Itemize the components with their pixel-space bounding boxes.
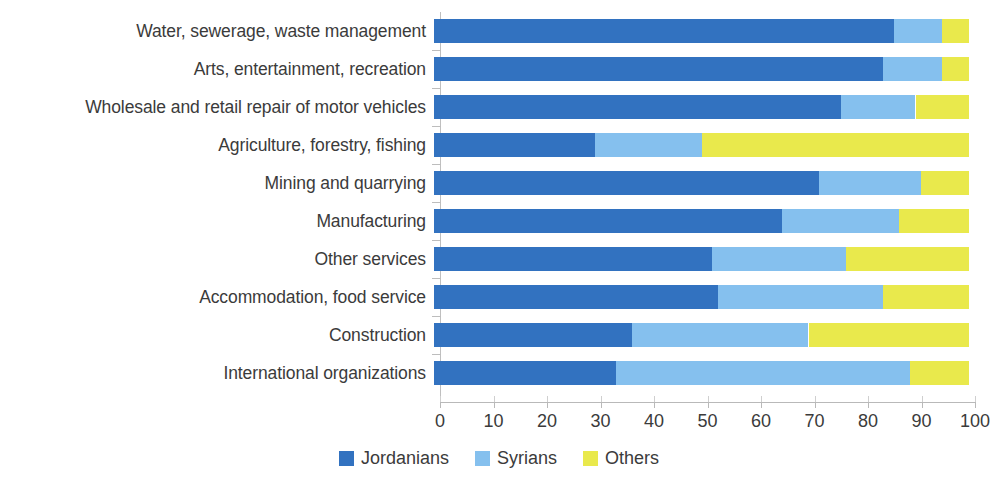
- stacked-bar: [434, 95, 969, 119]
- x-tick-mark-upper: [440, 396, 441, 402]
- x-tick-mark-upper: [922, 396, 923, 402]
- x-tick-mark-upper: [547, 396, 548, 402]
- x-tick-mark-upper: [494, 396, 495, 402]
- bar-segment-jordanians: [434, 133, 595, 157]
- bar-row: Mining and quarrying: [0, 164, 998, 202]
- x-tick-mark-upper: [708, 396, 709, 402]
- category-label: Construction: [0, 325, 432, 345]
- bar-segment-syrians: [782, 209, 900, 233]
- stacked-bar: [434, 57, 969, 81]
- bar-row: Construction: [0, 316, 998, 354]
- bar-segment-others: [809, 323, 970, 347]
- row-separator-tick: [432, 164, 441, 165]
- x-tick-label: 80: [858, 410, 878, 432]
- stacked-bar: [434, 133, 969, 157]
- x-axis-tick-labels: 0102030405060708090100: [440, 410, 975, 436]
- bar-segment-syrians: [616, 361, 910, 385]
- legend-label: Others: [605, 448, 659, 468]
- category-label: Accommodation, food service: [0, 287, 432, 307]
- bar-segment-syrians: [712, 247, 846, 271]
- x-tick-label: 90: [911, 410, 931, 432]
- x-tick-label: 50: [697, 410, 717, 432]
- category-label: International organizations: [0, 363, 432, 383]
- x-tick-label: 10: [483, 410, 503, 432]
- bar-segment-jordanians: [434, 361, 616, 385]
- bar-segment-others: [899, 209, 969, 233]
- stacked-bar: [434, 209, 969, 233]
- legend-item-jordanians[interactable]: Jordanians: [339, 448, 449, 468]
- bar-segment-jordanians: [434, 171, 819, 195]
- bar-segment-others: [942, 57, 969, 81]
- bar-row: Water, sewerage, waste management: [0, 12, 998, 50]
- stacked-bar-chart: Water, sewerage, waste managementArts, e…: [0, 0, 998, 477]
- legend-item-syrians[interactable]: Syrians: [475, 448, 557, 468]
- category-label: Arts, entertainment, recreation: [0, 59, 432, 79]
- x-tick-label: 0: [435, 410, 445, 432]
- x-tick-mark-upper: [975, 396, 976, 402]
- stacked-bar: [434, 247, 969, 271]
- bar-segment-jordanians: [434, 285, 718, 309]
- bar-row: International organizations: [0, 354, 998, 392]
- bar-segment-jordanians: [434, 323, 632, 347]
- x-tick-label: 70: [804, 410, 824, 432]
- x-tick: [761, 402, 762, 408]
- x-axis-line: [440, 402, 975, 403]
- bar-segment-jordanians: [434, 247, 712, 271]
- bar-segment-others: [910, 361, 969, 385]
- bar-segment-jordanians: [434, 209, 782, 233]
- row-separator-tick: [432, 126, 441, 127]
- bar-segment-others: [883, 285, 969, 309]
- x-tick-mark-upper: [654, 396, 655, 402]
- bar-segment-others: [942, 19, 969, 43]
- x-tick: [815, 402, 816, 408]
- bar-segment-syrians: [841, 95, 916, 119]
- x-tick: [975, 402, 976, 408]
- bar-segment-others: [846, 247, 969, 271]
- category-label: Water, sewerage, waste management: [0, 21, 432, 41]
- row-separator-tick: [432, 354, 441, 355]
- bar-segment-jordanians: [434, 19, 894, 43]
- x-tick: [868, 402, 869, 408]
- bar-segment-others: [702, 133, 970, 157]
- bar-segment-others: [916, 95, 970, 119]
- bar-row: Accommodation, food service: [0, 278, 998, 316]
- stacked-bar: [434, 361, 969, 385]
- stacked-bar: [434, 323, 969, 347]
- legend-swatch-icon: [339, 451, 354, 466]
- row-separator-tick: [432, 240, 441, 241]
- x-tick: [547, 402, 548, 408]
- x-tick-label: 60: [751, 410, 771, 432]
- legend-item-others[interactable]: Others: [583, 448, 659, 468]
- bar-segment-jordanians: [434, 57, 883, 81]
- x-tick: [440, 402, 441, 408]
- bar-segment-syrians: [718, 285, 884, 309]
- x-tick-label: 20: [537, 410, 557, 432]
- bar-segment-syrians: [894, 19, 942, 43]
- row-separator-tick: [432, 316, 441, 317]
- bar-row: Other services: [0, 240, 998, 278]
- x-tick: [601, 402, 602, 408]
- plot-area: Water, sewerage, waste managementArts, e…: [0, 0, 998, 410]
- bar-segment-syrians: [883, 57, 942, 81]
- x-tick: [708, 402, 709, 408]
- x-tick-mark-upper: [815, 396, 816, 402]
- category-label: Manufacturing: [0, 211, 432, 231]
- x-tick: [922, 402, 923, 408]
- legend-label: Jordanians: [361, 448, 449, 468]
- bar-segment-jordanians: [434, 95, 841, 119]
- bar-row: Wholesale and retail repair of motor veh…: [0, 88, 998, 126]
- x-tick-label: 100: [960, 410, 990, 432]
- x-tick-mark-upper: [761, 396, 762, 402]
- category-label: Agriculture, forestry, fishing: [0, 135, 432, 155]
- stacked-bar: [434, 171, 969, 195]
- category-label: Other services: [0, 249, 432, 269]
- row-separator-tick: [432, 202, 441, 203]
- bar-segment-syrians: [632, 323, 809, 347]
- bar-rows: Water, sewerage, waste managementArts, e…: [0, 12, 998, 392]
- bar-segment-syrians: [819, 171, 921, 195]
- legend-swatch-icon: [583, 451, 598, 466]
- x-tick-label: 30: [590, 410, 610, 432]
- legend-swatch-icon: [475, 451, 490, 466]
- x-tick: [494, 402, 495, 408]
- row-separator-tick: [432, 278, 441, 279]
